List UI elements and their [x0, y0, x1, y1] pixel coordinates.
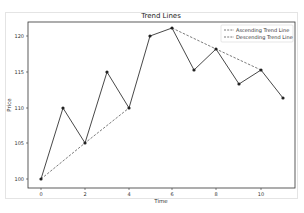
y-tick-label: 115 [14, 69, 24, 75]
axes-frame [28, 22, 295, 188]
x-tick-label: 6 [170, 191, 173, 197]
chart: Trend Lines 100 105 110 115 120 Price 0 … [0, 0, 304, 213]
y-tick-label: 110 [14, 105, 24, 111]
x-tick-label: 4 [127, 191, 130, 197]
x-tick-label: 10 [258, 191, 264, 197]
x-tick-label: 0 [39, 191, 42, 197]
legend-descending: Descending Trend Line [236, 34, 293, 41]
chart-title: Trend Lines [140, 12, 181, 20]
y-axis: 100 105 110 115 120 Price [6, 33, 28, 182]
y-tick-label: 105 [14, 140, 24, 146]
x-tick-label: 2 [83, 191, 86, 197]
y-axis-label: Price [6, 98, 12, 112]
y-tick-label: 100 [14, 176, 24, 182]
price-markers [39, 26, 284, 180]
x-tick-label: 8 [214, 191, 217, 197]
x-axis: 0 2 4 6 8 10 Time [39, 188, 264, 204]
x-axis-label: Time [153, 198, 168, 204]
y-tick-label: 120 [14, 33, 24, 39]
legend: Ascending Trend Line Descending Trend Li… [221, 25, 293, 42]
legend-ascending: Ascending Trend Line [236, 27, 289, 34]
price-line [41, 28, 283, 179]
